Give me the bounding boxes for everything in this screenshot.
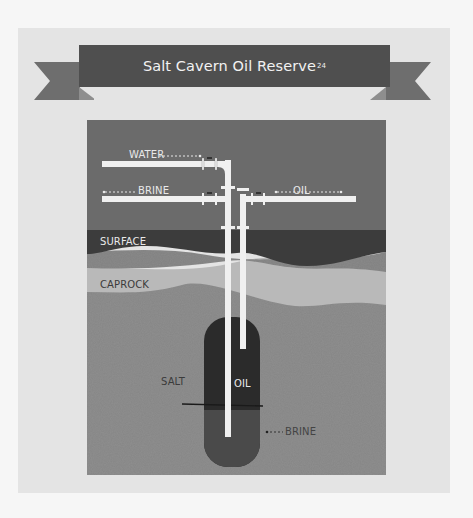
surface-label: SURFACE [100, 236, 146, 247]
salt-label: SALT [161, 376, 185, 387]
caprock-label: CAPROCK [100, 279, 149, 290]
oil-pipe-label: OIL [293, 185, 310, 196]
brine-pipe-label: BRINE [138, 185, 169, 196]
water-label: WATER [129, 149, 164, 160]
oil-cavern-label: OIL [234, 378, 251, 389]
sky-layer [87, 120, 386, 232]
page-title: Salt Cavern Oil Reserve [143, 58, 316, 74]
title-footnote: 24 [317, 62, 326, 70]
brine-cavern-label: BRINE [285, 426, 316, 437]
oil-pipe-vertical [240, 194, 246, 349]
cavern-diagram: WATER BRINE OIL SURFACE CAPROCK SALT OIL… [87, 120, 386, 475]
title-banner: Salt Cavern Oil Reserve24 [79, 45, 390, 87]
cavern-diagram-graphic [87, 120, 386, 475]
